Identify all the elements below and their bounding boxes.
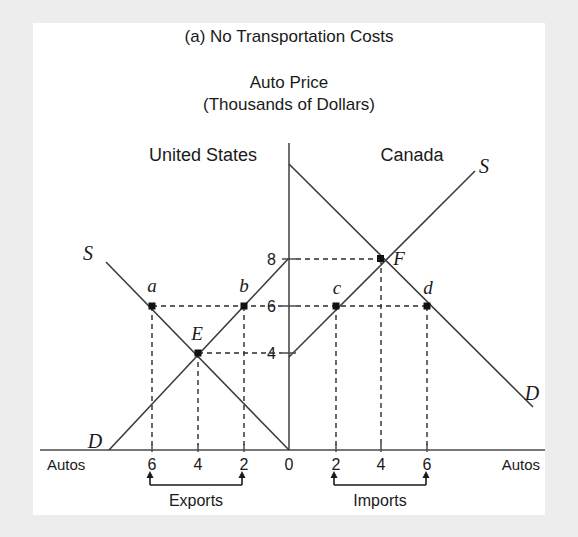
supply-demand-trade-diagram: (a) No Transportation Costs Auto Price (… bbox=[0, 0, 578, 537]
exports-label: Exports bbox=[169, 492, 223, 509]
x-axis-name-left: Autos bbox=[47, 456, 85, 473]
canada-demand-label: D bbox=[524, 382, 540, 404]
x-tick-label-right-2: 2 bbox=[332, 456, 341, 473]
point-marker-f bbox=[377, 255, 384, 262]
canada-supply-label: S bbox=[479, 155, 489, 177]
exports-bracket bbox=[147, 471, 246, 485]
point-marker-b bbox=[241, 303, 248, 310]
point-marker-e bbox=[195, 350, 202, 357]
point-label-b: b bbox=[239, 275, 249, 296]
panel-heading-united-states: United States bbox=[149, 145, 257, 165]
point-label-f: F bbox=[392, 248, 405, 269]
x-axis-name-right: Autos bbox=[502, 456, 540, 473]
canada-supply-curve bbox=[289, 171, 475, 357]
x-tick-label-origin: 0 bbox=[285, 456, 294, 473]
point-label-c: c bbox=[333, 277, 342, 298]
panel-heading-canada: Canada bbox=[380, 145, 444, 165]
x-tick-label-right-6: 6 bbox=[423, 456, 432, 473]
point-label-e: E bbox=[190, 323, 203, 344]
y-axis-title-line2: (Thousands of Dollars) bbox=[203, 95, 375, 114]
us-supply-label: S bbox=[83, 242, 93, 264]
x-tick-label-left-6: 6 bbox=[148, 456, 157, 473]
point-marker-a bbox=[149, 303, 156, 310]
us-demand-label: D bbox=[87, 430, 103, 452]
canada-demand-curve bbox=[289, 164, 533, 407]
y-axis-title-line1: Auto Price bbox=[250, 73, 328, 92]
imports-bracket bbox=[331, 471, 430, 485]
point-marker-c bbox=[333, 303, 340, 310]
x-tick-label-left-2: 2 bbox=[240, 456, 249, 473]
y-tick-label-8: 8 bbox=[267, 251, 276, 268]
point-label-d: d bbox=[423, 277, 433, 298]
point-label-a: a bbox=[147, 275, 157, 296]
point-marker-d bbox=[424, 303, 431, 310]
x-tick-label-left-4: 4 bbox=[194, 456, 203, 473]
x-tick-label-right-4: 4 bbox=[377, 456, 386, 473]
figure-frame: (a) No Transportation Costs Auto Price (… bbox=[0, 0, 578, 537]
imports-label: Imports bbox=[353, 492, 406, 509]
figure-title: (a) No Transportation Costs bbox=[185, 27, 394, 46]
